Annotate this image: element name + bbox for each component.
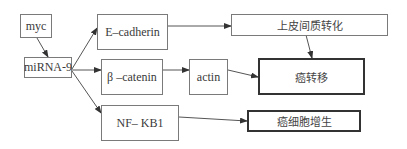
edge-nfkb1-proliferation — [179, 117, 247, 121]
node-label: NF– KB1 — [116, 116, 163, 131]
node-proliferation: 癌细胞增生 — [247, 110, 361, 132]
edge-myc-mirna9 — [37, 38, 48, 57]
node-label: β –catenin — [107, 70, 157, 85]
edge-actin-metastasis — [228, 70, 258, 77]
node-label: 癌细胞增生 — [277, 113, 332, 129]
node-label: actin — [197, 70, 220, 85]
edge-emt-metastasis — [306, 35, 312, 58]
node-label: miRNA-9 — [24, 60, 72, 75]
edge-mirna9-nfkb1 — [72, 71, 101, 113]
node-emt: 上皮间质转化 — [231, 14, 388, 36]
node-myc: myc — [20, 14, 52, 38]
node-bcatenin: β –catenin — [101, 59, 163, 95]
node-label: 上皮间质转化 — [277, 17, 343, 33]
node-mirna9: miRNA-9 — [24, 57, 72, 78]
node-label: myc — [26, 19, 47, 34]
node-label: 癌转移 — [295, 69, 328, 85]
node-ecadherin: E–cadherin — [97, 14, 168, 50]
node-metastasis: 癌转移 — [258, 58, 365, 95]
node-label: E–cadherin — [105, 25, 160, 40]
node-actin: actin — [189, 59, 228, 95]
edge-mirna9-ecadherin — [72, 28, 97, 69]
node-nfkb1: NF– KB1 — [101, 105, 179, 141]
